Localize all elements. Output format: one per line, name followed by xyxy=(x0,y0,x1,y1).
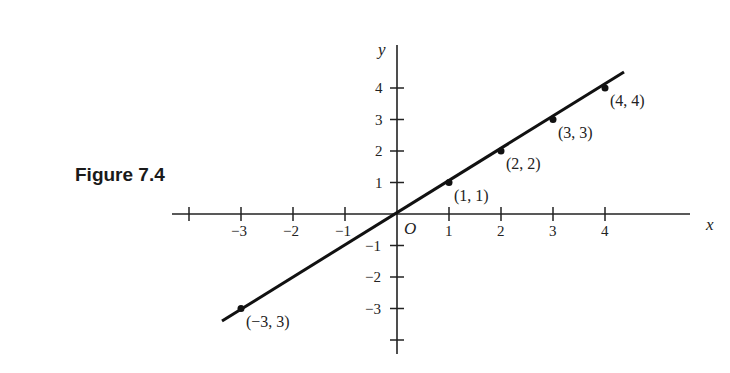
line-y-equals-x xyxy=(222,72,624,321)
origin-label: O xyxy=(404,219,416,238)
y-tick-label: −3 xyxy=(365,301,381,317)
y-tick-label: −2 xyxy=(365,269,381,285)
y-tick-label: 3 xyxy=(375,112,383,128)
data-point xyxy=(602,85,609,92)
figure-caption: Figure 7.4 xyxy=(75,164,165,185)
y-tick-label: 4 xyxy=(375,80,383,96)
y-tick-label: −1 xyxy=(365,238,381,254)
x-tick-label: 2 xyxy=(497,223,505,239)
point-label: (4, 4) xyxy=(610,92,645,110)
data-point xyxy=(238,305,245,312)
x-tick-label: 4 xyxy=(601,223,609,239)
point-label: (−3, 3) xyxy=(246,313,290,331)
data-point xyxy=(446,179,453,186)
x-axis-label: x xyxy=(705,215,714,234)
x-tick-label: −3 xyxy=(231,223,247,239)
data-points: (−3, 3)(1, 1)(2, 2)(3, 3)(4, 4) xyxy=(238,85,645,331)
x-tick-label: −2 xyxy=(283,223,299,239)
x-tick-label: 1 xyxy=(445,223,453,239)
point-label: (2, 2) xyxy=(506,155,541,173)
figure-7-4: Figure 7.4 −3−2−11234 −3−2−11234 x y O (… xyxy=(0,0,730,373)
point-label: (1, 1) xyxy=(454,187,489,205)
data-point xyxy=(550,116,557,123)
y-axis-label: y xyxy=(376,40,386,59)
data-point xyxy=(498,148,505,155)
y-tick-label: 2 xyxy=(375,143,383,159)
point-label: (3, 3) xyxy=(558,124,593,142)
y-ticks: −3−2−11234 xyxy=(365,80,404,340)
x-tick-label: 3 xyxy=(549,223,557,239)
x-tick-label: −1 xyxy=(335,223,351,239)
y-tick-label: 1 xyxy=(375,175,383,191)
